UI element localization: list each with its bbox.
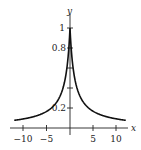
- chart: −10 −5 5 10 1 0.8 0.2 x y: [0, 0, 141, 150]
- y-tick-label: 0.8: [52, 43, 67, 53]
- x-tick-label: −5: [40, 134, 54, 144]
- x-axis-label: x: [131, 123, 136, 133]
- y-axis-label: y: [66, 6, 73, 16]
- x-tick-label: 10: [110, 134, 122, 144]
- y-tick-label: 1: [59, 23, 65, 33]
- x-tick-label: −10: [14, 134, 33, 144]
- x-tick-label: 5: [90, 134, 96, 144]
